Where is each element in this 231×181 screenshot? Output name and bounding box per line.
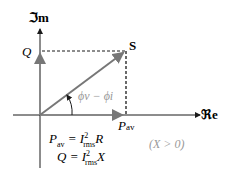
power-triangle-diagram: ℑm ℜe Q S Pav ϕv − ϕi Pav = I2rmsR Q = I… bbox=[0, 0, 231, 181]
diagram-svg bbox=[0, 0, 231, 181]
q-label: Q bbox=[22, 44, 31, 60]
equation-pav: Pav = I2rmsR bbox=[49, 131, 103, 149]
imag-axis-label: ℑm bbox=[29, 10, 49, 26]
s-label: S bbox=[129, 38, 136, 54]
angle-label: ϕv − ϕi bbox=[78, 89, 113, 104]
pav-sub: av bbox=[126, 122, 135, 132]
s-vector bbox=[40, 53, 123, 115]
pav-letter: P bbox=[118, 118, 126, 133]
pav-label: Pav bbox=[118, 118, 134, 134]
real-axis-label: ℜe bbox=[201, 107, 218, 123]
angle-arc bbox=[67, 95, 72, 115]
condition-label: (X > 0) bbox=[149, 137, 184, 152]
equation-q: Q = I2rmsX bbox=[57, 149, 105, 167]
